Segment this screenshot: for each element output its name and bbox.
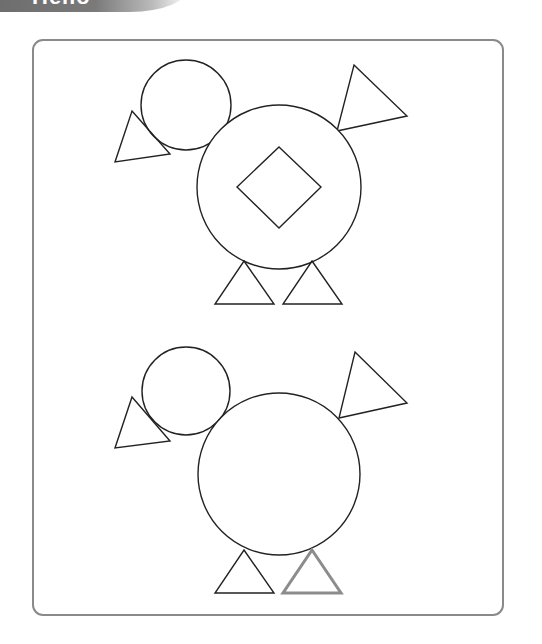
worksheet-drawing [0,0,542,644]
tail-triangle-icon [339,352,407,418]
tail-triangle-icon [337,65,407,131]
beak-triangle-icon [115,397,170,448]
body-circle-icon [198,393,360,555]
right-leg-triangle-highlighted-icon [283,550,341,593]
body-circle-icon [197,105,361,269]
duck-figure-bottom [115,347,407,593]
duck-figure-top [115,60,407,304]
left-leg-triangle-icon [215,550,274,593]
